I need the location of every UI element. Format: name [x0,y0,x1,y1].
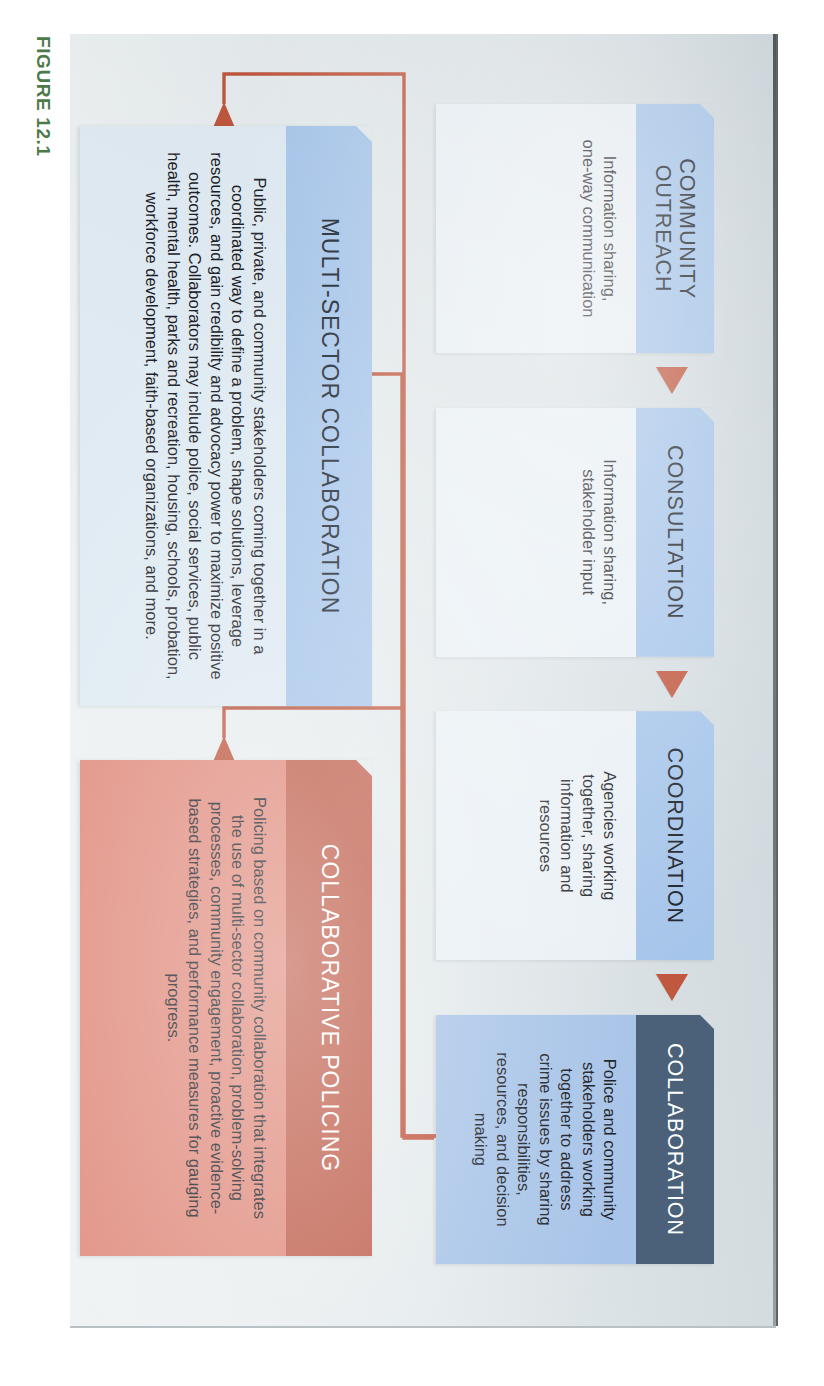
stage-box-coordination[interactable]: COORDINATION Agencies working together, … [436,711,714,960]
triangle-arrow-icon [656,974,688,1001]
stage-title-coordination: COORDINATION [636,711,714,960]
result-title-multi-sector-collaboration: MULTI-SECTOR COLLABORATION [286,126,372,706]
progress-arrow-3-wrap [436,960,714,1015]
triangle-arrow-icon [656,671,688,698]
stage-title-consultation: CONSULTATION [636,408,714,657]
progress-arrow-1-wrap [436,353,714,408]
result-description-multi-sector-collaboration: Public, private, and community stakehold… [80,126,286,706]
result-box-multi-sector-collaboration[interactable]: MULTI-SECTOR COLLABORATION Public, priva… [80,126,372,706]
stage-title-community-outreach: COMMUNITY OUTREACH [636,104,714,353]
progress-arrow-2-wrap [436,657,714,712]
figure-plate: COMMUNITY OUTREACH Information sharing, … [70,34,776,1326]
stage-description-collaboration: Police and community stakeholders workin… [436,1015,636,1264]
stage-description-consultation: Information sharing, stakeholder input [436,408,636,657]
stage-description-coordination: Agencies working together, sharing infor… [436,711,636,960]
stage-description-community-outreach: Information sharing, one-way communicati… [436,104,636,353]
stage-title-collaboration: COLLABORATION [636,1015,714,1264]
triangle-arrow-icon [656,367,688,394]
stage-box-collaboration[interactable]: COLLABORATION Police and community stake… [436,1015,714,1264]
stage-box-consultation[interactable]: CONSULTATION Information sharing, stakeh… [436,408,714,657]
figure-caption: FIGURE 12.1 [32,36,54,157]
result-description-collaborative-policing: Policing based on community collaboratio… [80,760,286,1256]
result-title-collaborative-policing: COLLABORATIVE POLICING [286,760,372,1256]
figure-canvas: COMMUNITY OUTREACH Information sharing, … [0,0,824,1386]
result-box-collaborative-policing[interactable]: COLLABORATIVE POLICING Policing based on… [80,760,372,1256]
progression-row: COMMUNITY OUTREACH Information sharing, … [436,104,714,1264]
stage-box-community-outreach[interactable]: COMMUNITY OUTREACH Information sharing, … [436,104,714,353]
